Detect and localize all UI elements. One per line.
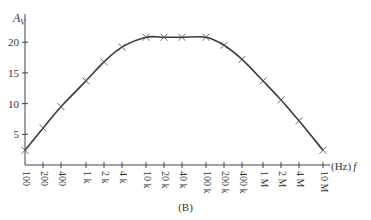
x-tick-label: 4 k: [118, 171, 129, 184]
x-tick-label: 40 k: [178, 171, 189, 189]
x-tick-label: 2 M: [277, 171, 288, 188]
x-tick-label: 1 k: [82, 171, 93, 184]
x-marker-icon: [239, 56, 246, 63]
x-marker-icon: [101, 58, 108, 65]
x-tick-label: 20 k: [160, 171, 171, 189]
x-tick-label: 200: [39, 171, 50, 186]
x-tick-label: 100: [21, 171, 32, 186]
response-curve: [25, 37, 323, 151]
x-tick-label: 4 M: [295, 171, 306, 188]
x-tick-label: 2 k: [100, 171, 111, 184]
figure-caption: (B): [0, 201, 371, 213]
y-axis-label: AV: [12, 11, 26, 27]
x-marker-icon: [58, 103, 65, 110]
x-marker-icon: [221, 42, 228, 49]
frequency-response-chart: 5101520 1002004001 k2 k4 k10 k20 k40 k10…: [0, 0, 371, 200]
y-tick-label: 10: [8, 98, 20, 110]
x-tick-label: 10 M: [319, 171, 330, 193]
y-axis: 5101520: [8, 14, 28, 165]
x-tick-label: 100 k: [202, 171, 213, 194]
x-marker-icon: [83, 77, 90, 84]
x-tick-label: 400 k: [238, 171, 249, 194]
x-marker-icon: [260, 77, 267, 84]
x-tick-label: 10 k: [142, 171, 153, 189]
y-tick-label: 15: [8, 67, 20, 79]
x-axis: 1002004001 k2 k4 k10 k20 k40 k100 k200 k…: [21, 162, 330, 194]
x-marker-icon: [119, 44, 126, 51]
x-tick-label: 1 M: [259, 171, 270, 188]
y-tick-label: 5: [14, 128, 20, 140]
y-tick-label: 20: [8, 36, 20, 48]
x-marker-icon: [320, 147, 327, 154]
x-axis-label: (Hz)f: [331, 160, 358, 173]
x-marker-icon: [296, 117, 303, 124]
x-tick-label: 400: [57, 171, 68, 186]
x-tick-label: 200 k: [220, 171, 231, 194]
x-marker-icon: [278, 96, 285, 103]
x-marker-icon: [40, 125, 47, 132]
data-series: [22, 34, 327, 154]
